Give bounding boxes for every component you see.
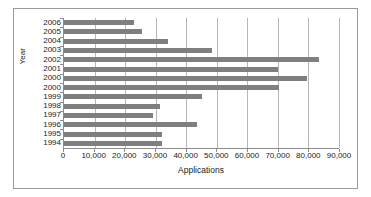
bar: [64, 104, 160, 109]
x-axis-tick-label: 10,000: [81, 152, 105, 160]
y-axis-tick-labels: 2006200520042003200220012000200019991998…: [28, 18, 63, 148]
y-axis-tick-label: 1998: [28, 102, 63, 111]
plot-wrapper: Year 20062005200420032002200120002000199…: [14, 9, 357, 188]
bar-row: [64, 74, 339, 83]
x-axis-tick-label: 0: [61, 152, 65, 160]
bar-row: [64, 92, 339, 101]
y-axis-tick-label: 2001: [28, 64, 63, 73]
bar: [64, 67, 278, 72]
y-axis-tick-label: 1997: [28, 111, 63, 120]
bar-row: [64, 64, 339, 73]
bar: [64, 132, 162, 137]
y-axis-tick-label: 2002: [28, 55, 63, 64]
bar-row: [64, 129, 339, 138]
plot-area: [63, 18, 339, 149]
x-axis-tick-labels: 010,00020,00030,00040,00050,00060,00070,…: [63, 152, 339, 164]
y-axis-tick-label: 2005: [28, 27, 63, 36]
bar-row: [64, 102, 339, 111]
gridline: [339, 18, 340, 148]
y-axis-tick-label: 1995: [28, 129, 63, 138]
x-axis-tick-label: 90,000: [327, 152, 351, 160]
y-axis-tick-label: 1996: [28, 120, 63, 129]
bar: [64, 57, 319, 62]
bar-row: [64, 37, 339, 46]
x-axis-tick-label: 40,000: [173, 152, 197, 160]
bar: [64, 85, 279, 90]
bar-row: [64, 18, 339, 27]
x-axis-tick-label: 20,000: [112, 152, 136, 160]
bar-row: [64, 111, 339, 120]
bar: [64, 20, 134, 25]
bar: [64, 122, 197, 127]
y-axis-tick-label: 2003: [28, 46, 63, 55]
bar-row: [64, 46, 339, 55]
bar: [64, 48, 212, 53]
bar: [64, 39, 168, 44]
bar: [64, 141, 162, 146]
x-axis-tick-label: 80,000: [296, 152, 320, 160]
y-axis-tick-label: 1999: [28, 92, 63, 101]
x-axis-tick-label: 30,000: [143, 152, 167, 160]
bar: [64, 29, 142, 34]
bar: [64, 113, 153, 118]
y-axis-tick-label: 2000: [28, 74, 63, 83]
y-axis-title: Year: [18, 51, 27, 65]
y-axis-tick-label: 2006: [28, 18, 63, 27]
bar-row: [64, 83, 339, 92]
x-axis-tick-label: 50,000: [204, 152, 228, 160]
y-axis-tick-label: 1994: [28, 139, 63, 148]
x-axis-title: Applications: [63, 166, 339, 175]
bar-row: [64, 139, 339, 148]
x-axis-tick-label: 70,000: [265, 152, 289, 160]
bars-layer: [64, 18, 339, 148]
bar-row: [64, 55, 339, 64]
bar: [64, 94, 202, 99]
x-axis-tick-label: 60,000: [235, 152, 259, 160]
y-axis-tick-label: 2000: [28, 83, 63, 92]
y-axis-tick-label: 2004: [28, 37, 63, 46]
bar-row: [64, 27, 339, 36]
bar: [64, 76, 307, 81]
bar-chart-figure: Year 20062005200420032002200120002000199…: [13, 8, 358, 189]
bar-row: [64, 120, 339, 129]
